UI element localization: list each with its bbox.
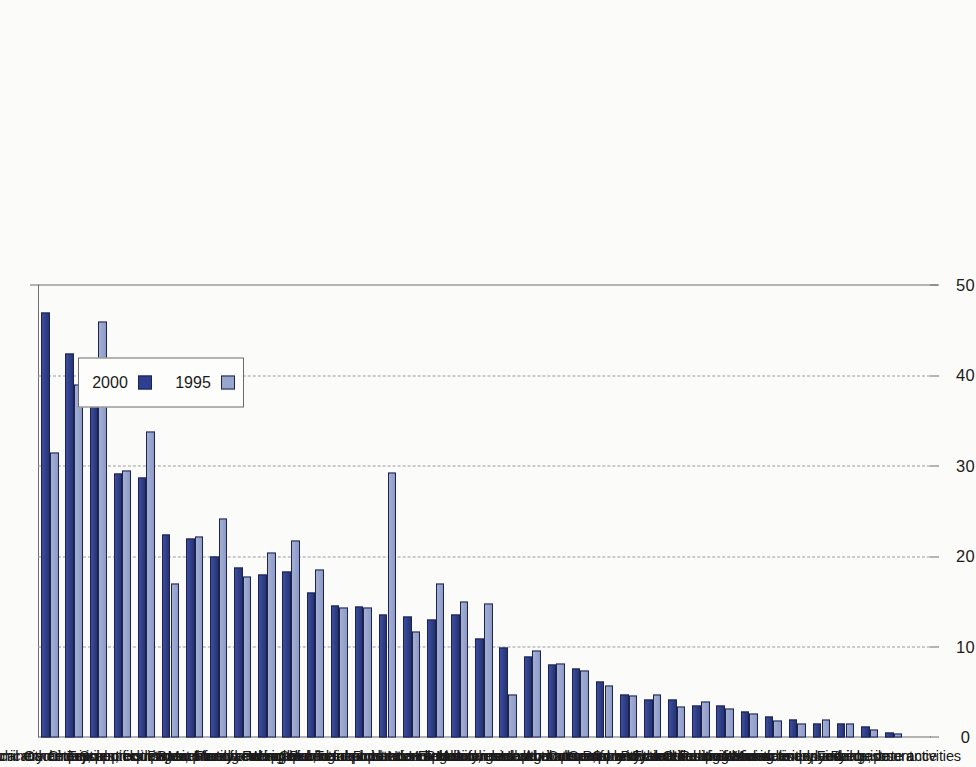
bar-group [592, 285, 616, 737]
bar-2000 [741, 711, 750, 737]
value-axis-tick-label: 50 [956, 276, 975, 295]
bar-2000 [716, 705, 725, 737]
bar-2000 [138, 477, 147, 737]
bar-group [376, 285, 400, 737]
bar-1995 [412, 631, 421, 737]
bar-group [86, 285, 110, 737]
value-axis-tick [930, 646, 939, 647]
bar-1995 [725, 708, 734, 737]
bar-1995 [122, 470, 131, 737]
bar-group [858, 285, 882, 737]
bar-1995 [171, 583, 180, 737]
bar-1995 [822, 719, 831, 737]
bar-2000 [524, 656, 533, 737]
bar-2000 [620, 694, 629, 737]
bars-layer [38, 285, 930, 737]
bar-2000 [813, 723, 822, 737]
bar-group [424, 285, 448, 737]
bar-2000 [765, 716, 774, 737]
bar-1995 [267, 552, 276, 737]
bar-1995 [195, 536, 204, 737]
value-axis-tick-label: 40 [956, 366, 975, 385]
bar-group [713, 285, 737, 737]
bar-group [882, 285, 906, 737]
bar-group [303, 285, 327, 737]
legend-entry-1995: 1995 [170, 364, 235, 400]
bar-2000 [837, 723, 846, 737]
bar-group [400, 285, 424, 737]
value-axis-tick [930, 556, 939, 557]
bar-group [327, 285, 351, 737]
bar-2000 [692, 705, 701, 737]
bar-1995 [339, 607, 348, 737]
bar-2000 [451, 614, 460, 737]
bar-1995 [388, 472, 397, 737]
bar-group [737, 285, 761, 737]
bar-2000 [41, 312, 50, 737]
bar-group [279, 285, 303, 737]
bar-1995 [677, 706, 686, 737]
bar-1995 [605, 685, 614, 737]
bar-group [520, 285, 544, 737]
value-axis-tick [930, 465, 939, 466]
bar-group [62, 285, 86, 737]
bar-2000 [331, 605, 340, 737]
value-axis-tick [930, 284, 939, 285]
bar-1995 [749, 714, 758, 738]
value-axis-tick-label: 10 [956, 637, 975, 656]
bar-group [906, 285, 930, 737]
legend-label: 2000 [92, 373, 128, 391]
bar-group [568, 285, 592, 737]
bar-1995 [629, 695, 638, 737]
bar-2000 [885, 732, 894, 737]
legend: 20001995 [78, 357, 244, 407]
bar-1995 [773, 720, 782, 737]
bar-1995 [508, 694, 517, 737]
bar-group [472, 285, 496, 737]
bar-2000 [427, 619, 436, 737]
bar-1995 [219, 518, 228, 737]
bar-group [641, 285, 665, 737]
bar-2000 [403, 616, 412, 737]
legend-label: 1995 [175, 373, 211, 391]
bar-2000 [668, 699, 677, 737]
bar-1995 [846, 723, 855, 737]
bar-1995 [532, 650, 541, 737]
bar-group [448, 285, 472, 737]
bar-2000 [355, 606, 364, 737]
bar-2000 [162, 534, 171, 737]
bar-group [834, 285, 858, 737]
bar-1995 [460, 601, 469, 737]
bar-group [134, 285, 158, 737]
bar-1995 [315, 569, 324, 737]
bar-1995 [894, 733, 903, 737]
bar-1995 [556, 663, 565, 737]
bar-group [110, 285, 134, 737]
legend-swatch-2000 [138, 375, 152, 389]
value-axis-tick-label: 30 [956, 456, 975, 475]
bar-2000 [234, 567, 243, 737]
bar-2000 [379, 614, 388, 737]
bar-2000 [475, 638, 484, 737]
bar-2000 [596, 681, 605, 737]
bar-group [159, 285, 183, 737]
value-axis-tick-label: 0 [961, 728, 970, 747]
bar-group [665, 285, 689, 737]
bar-2000 [499, 647, 508, 737]
bar-1995 [870, 729, 879, 737]
bar-group [689, 285, 713, 737]
bar-group [207, 285, 231, 737]
bar-group [761, 285, 785, 737]
bar-group [785, 285, 809, 737]
legend-swatch-1995 [221, 375, 235, 389]
bar-1995 [653, 694, 662, 737]
bar-1995 [146, 431, 155, 737]
bar-2000 [186, 538, 195, 737]
bar-1995 [484, 603, 493, 737]
bar-group [255, 285, 279, 737]
bar-2000 [644, 699, 653, 737]
bar-1995 [436, 583, 445, 737]
bar-group [496, 285, 520, 737]
value-axis-tick [930, 375, 939, 376]
bar-chart: 01020304050 % Radio, TV, communication e… [0, 0, 976, 767]
